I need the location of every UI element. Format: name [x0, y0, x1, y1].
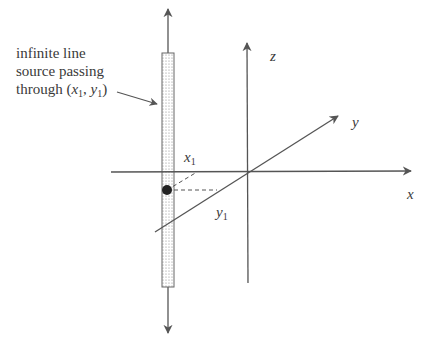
x1-label: x1	[183, 149, 196, 167]
line-source-rod	[162, 53, 174, 287]
z-axis-label: z	[269, 48, 276, 64]
caption-y: y	[89, 81, 98, 97]
line-source	[162, 9, 174, 333]
source-point	[162, 185, 172, 195]
y1-label-sub: 1	[223, 211, 228, 222]
z-axis	[247, 43, 248, 283]
caption-line-2: source passing	[16, 63, 104, 79]
caption-line-3: through (x1, y1)	[16, 81, 107, 99]
y-axis-label: y	[350, 114, 359, 130]
y-axis	[155, 116, 338, 232]
caption-line-1: infinite line	[16, 45, 86, 61]
x1-label-sub: 1	[191, 156, 196, 167]
caption-sep: ,	[83, 81, 91, 97]
caption-through: through (	[16, 81, 71, 98]
x-axis	[111, 171, 411, 172]
y1-label: y1	[214, 204, 228, 222]
line-source-diagram: infinite line source passing through (x1…	[0, 0, 433, 349]
y1-label-main: y	[214, 204, 223, 220]
axes	[111, 43, 411, 283]
x-axis-label: x	[406, 186, 414, 202]
caption-close: )	[102, 81, 107, 98]
caption-pointer-arrow	[117, 92, 157, 104]
